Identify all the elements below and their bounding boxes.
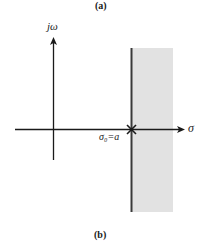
real-axis-label: σ	[188, 121, 194, 136]
caption-b: (b)	[94, 229, 106, 240]
imaginary-axis-label: jω	[47, 20, 58, 32]
sigma0-label: σ₀=a	[99, 131, 119, 142]
s-plane-diagram	[0, 0, 207, 244]
